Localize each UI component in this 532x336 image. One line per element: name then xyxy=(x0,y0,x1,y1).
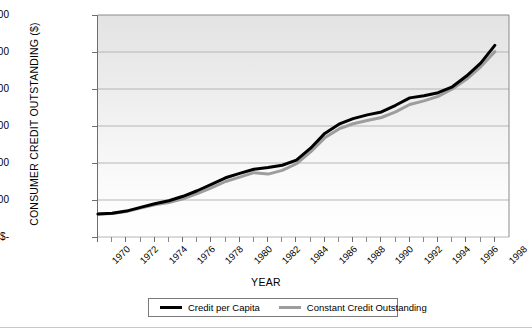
legend-label: Credit per Capita xyxy=(188,303,260,313)
x-tick-label: 1992 xyxy=(422,244,444,266)
legend-item-credit-per-capita: Credit per Capita xyxy=(160,303,260,313)
x-tick-label: 1990 xyxy=(394,244,416,266)
plot-area xyxy=(97,15,509,237)
x-tick-mark xyxy=(253,237,254,242)
x-tick-label: 1986 xyxy=(337,244,359,266)
x-tick-mark xyxy=(352,237,353,242)
x-tick-label: 1972 xyxy=(139,244,161,266)
series-line xyxy=(98,45,495,214)
x-tick-mark xyxy=(380,237,381,242)
x-tick-mark xyxy=(310,237,311,242)
x-tick-mark xyxy=(210,237,211,242)
x-tick-mark xyxy=(423,237,424,242)
x-tick-mark xyxy=(196,237,197,242)
y-tick-label: $3 000 xyxy=(0,121,9,131)
x-tick-mark xyxy=(409,237,410,242)
x-tick-mark xyxy=(437,237,438,242)
x-tick-mark xyxy=(182,237,183,242)
x-tick-label: 1980 xyxy=(252,244,274,266)
legend-item-constant-credit-outstanding: Constant Credit Outstanding xyxy=(279,303,427,313)
footer-divider xyxy=(0,327,532,328)
series-lines xyxy=(98,45,495,214)
y-axis-title: CONSUMER CREDIT OUTSTANDING ($) xyxy=(28,16,40,232)
x-tick-label: 1998 xyxy=(507,244,529,266)
x-tick-mark xyxy=(140,237,141,242)
x-axis-title: YEAR xyxy=(0,276,532,288)
x-tick-label: 1978 xyxy=(224,244,246,266)
x-tick-mark xyxy=(494,237,495,242)
x-tick-mark xyxy=(267,237,268,242)
x-tick-mark xyxy=(480,237,481,242)
x-tick-mark xyxy=(366,237,367,242)
x-tick-label: 1974 xyxy=(167,244,189,266)
x-tick-mark xyxy=(395,237,396,242)
x-tick-label: 1976 xyxy=(195,244,217,266)
legend-label: Constant Credit Outstanding xyxy=(307,303,427,313)
x-tick-label: 1994 xyxy=(450,244,472,266)
y-tick-label: $- xyxy=(0,232,9,242)
legend-swatch-line-icon xyxy=(279,306,301,310)
x-tick-mark xyxy=(465,237,466,242)
x-tick-mark xyxy=(154,237,155,242)
x-tick-label: 1996 xyxy=(479,244,501,266)
y-tick-label: $6 000 xyxy=(0,10,9,20)
x-tick-label: 1970 xyxy=(110,244,132,266)
x-tick-mark xyxy=(125,237,126,242)
y-tick-label: $4 000 xyxy=(0,84,9,94)
x-tick-mark xyxy=(324,237,325,242)
x-tick-mark xyxy=(281,237,282,242)
x-tick-mark xyxy=(338,237,339,242)
y-tick-label: $2 000 xyxy=(0,158,9,168)
x-tick-mark xyxy=(451,237,452,242)
x-tick-label: 1984 xyxy=(309,244,331,266)
chart-legend: Credit per Capita Constant Credit Outsta… xyxy=(148,298,398,317)
x-tick-mark xyxy=(225,237,226,242)
series-line xyxy=(98,52,495,214)
x-tick-mark xyxy=(111,237,112,242)
x-tick-mark xyxy=(295,237,296,242)
x-tick-label: 1988 xyxy=(365,244,387,266)
plot-svg xyxy=(98,15,509,237)
chart-figure: CONSUMER CREDIT OUTSTANDING ($) $-$1 000… xyxy=(0,0,532,336)
x-tick-mark xyxy=(168,237,169,242)
x-tick-mark xyxy=(97,237,98,242)
x-tick-label: 1982 xyxy=(280,244,302,266)
legend-swatch-line-icon xyxy=(160,306,182,310)
y-tick-label: $1 000 xyxy=(0,195,9,205)
x-tick-mark xyxy=(239,237,240,242)
y-tick-label: $5 000 xyxy=(0,47,9,57)
